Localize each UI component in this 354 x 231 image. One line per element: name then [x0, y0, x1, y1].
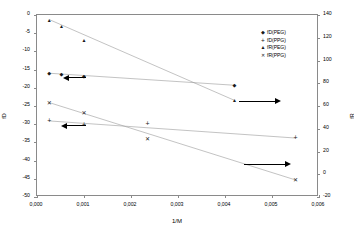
x-tick-label: 0,004 [218, 202, 231, 207]
arrow-head-icon [275, 98, 281, 104]
y-right-tick [317, 152, 320, 153]
data-point: ▲ [82, 37, 87, 43]
y-left-tick-label: -5 [0, 30, 30, 35]
x-tick [225, 195, 226, 198]
y-right-tick [317, 174, 320, 175]
y-right-tick-label: 120 [323, 34, 332, 39]
chart-figure: fD fR 1/M ◆◆◆◆++++▲▲▲▲✕✕✕✕ ◆fD(PEG)+fD(P… [0, 0, 354, 231]
y-left-tick-label: -20 [0, 84, 30, 89]
y-left-tick-label: -15 [0, 66, 30, 71]
legend-item: ▲fR(PEG) [259, 44, 286, 52]
data-point: ✕ [47, 100, 52, 106]
y-right-tick-label: 80 [323, 80, 329, 85]
arrow-fd-peg-left [63, 74, 87, 81]
data-point: + [145, 121, 149, 127]
y-left-tick [34, 124, 37, 125]
y-right-tick [317, 129, 320, 130]
y-left-tick-label: -30 [0, 121, 30, 126]
y-left-tick [34, 161, 37, 162]
data-point: ▲ [232, 97, 237, 103]
legend-label: fR(PPG) [267, 52, 286, 60]
x-tick-label: 0,006 [312, 202, 325, 207]
x-axis-title: 1/M [172, 218, 182, 224]
y-left-tick [34, 33, 37, 34]
arrow-shaft [69, 77, 87, 78]
y-axis-left-title: fD [1, 113, 7, 118]
y-left-tick [34, 142, 37, 143]
y-left-tick-label: -35 [0, 139, 30, 144]
y-right-tick [317, 15, 320, 16]
x-tick-label: 0,003 [171, 202, 184, 207]
y-right-tick-label: 40 [323, 125, 329, 130]
data-point: ▲ [47, 17, 52, 23]
legend-marker-icon: ◆ [259, 29, 267, 37]
legend-item: +fD(PPG) [259, 37, 286, 45]
y-right-tick-label: 0 [323, 171, 326, 176]
arrow-shaft [239, 101, 275, 102]
y-right-tick-label: 20 [323, 148, 329, 153]
x-tick [272, 195, 273, 198]
y-left-tick [34, 88, 37, 89]
legend-marker-icon: + [259, 37, 267, 45]
data-point: ◆ [47, 70, 51, 76]
x-tick [37, 195, 38, 198]
x-tick-label: 0,000 [30, 202, 43, 207]
y-left-tick-label: -50 [0, 193, 30, 198]
arrow-head-icon [285, 161, 291, 167]
x-tick [131, 195, 132, 198]
y-left-tick [34, 106, 37, 107]
y-right-tick-label: 140 [323, 11, 332, 16]
y-right-tick-label: -20 [323, 193, 331, 198]
y-right-tick-label: 60 [323, 102, 329, 107]
trend-line [49, 20, 234, 101]
y-right-tick [317, 38, 320, 39]
x-tick [178, 195, 179, 198]
data-point: ✕ [293, 177, 298, 183]
data-point: ◆ [232, 82, 236, 88]
legend-label: fR(PEG) [267, 44, 286, 52]
y-axis-right-title: fR [348, 113, 354, 118]
y-right-tick [317, 106, 320, 107]
legend-label: fD(PEG) [267, 29, 286, 37]
y-left-tick [34, 51, 37, 52]
y-left-tick-label: -45 [0, 175, 30, 180]
legend-item: ✕fR(PPG) [259, 52, 286, 60]
legend-marker-icon: ▲ [259, 44, 267, 52]
arrow-fd-ppg-left [61, 122, 87, 129]
x-tick-label: 0,001 [77, 202, 90, 207]
arrow-shaft [67, 125, 87, 126]
y-right-tick-label: 100 [323, 57, 332, 62]
data-point: ✕ [145, 136, 150, 142]
x-tick [319, 195, 320, 198]
y-left-tick [34, 15, 37, 16]
data-point: ▲ [59, 23, 64, 29]
y-left-tick [34, 179, 37, 180]
y-left-tick-label: -10 [0, 48, 30, 53]
arrow-fr-ppg-right [244, 161, 291, 168]
y-right-tick [317, 83, 320, 84]
y-left-tick-label: -40 [0, 157, 30, 162]
chart-legend: ◆fD(PEG)+fD(PPG)▲fR(PEG)✕fR(PPG) [259, 29, 286, 59]
y-left-tick-label: 0 [0, 11, 30, 16]
y-left-tick-label: -25 [0, 102, 30, 107]
y-right-tick [317, 61, 320, 62]
data-point: + [293, 135, 297, 141]
data-point: + [47, 118, 51, 124]
data-point: ✕ [81, 110, 86, 116]
legend-item: ◆fD(PEG) [259, 29, 286, 37]
x-tick-label: 0,005 [265, 202, 278, 207]
arrow-fr-peg-right [239, 98, 281, 105]
y-left-tick [34, 70, 37, 71]
arrow-shaft [244, 164, 285, 165]
x-tick-label: 0,002 [124, 202, 137, 207]
x-tick [84, 195, 85, 198]
plot-area: ◆◆◆◆++++▲▲▲▲✕✕✕✕ ◆fD(PEG)+fD(PPG)▲fR(PEG… [36, 14, 318, 196]
legend-marker-icon: ✕ [259, 52, 267, 60]
legend-label: fD(PPG) [267, 37, 286, 45]
